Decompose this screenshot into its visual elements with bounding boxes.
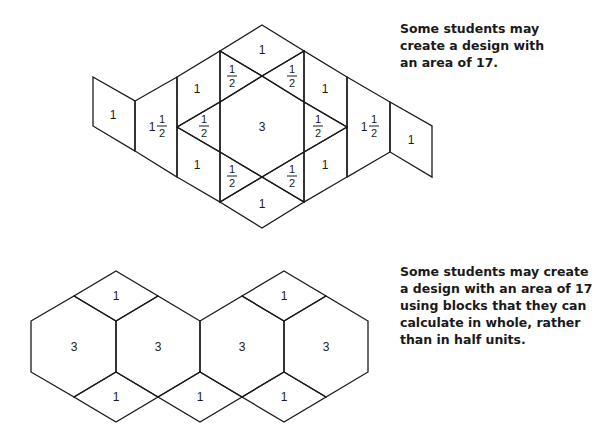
caption-bottom-line-1: Some students may create <box>400 263 593 280</box>
label-right-trapezoid-den: 2 <box>371 127 377 139</box>
caption-top-line-3: an area of 17. <box>400 54 544 71</box>
svg-text:1: 1 <box>289 163 295 175</box>
caption-top-line-2: create a design with <box>400 37 544 54</box>
label-top-rhombus-2: 1 <box>281 289 288 303</box>
svg-text:1: 1 <box>289 63 295 75</box>
label-bottom-rhombus-3: 1 <box>281 390 288 404</box>
svg-text:1: 1 <box>229 63 235 75</box>
label-left-trapezoid-den: 2 <box>159 127 165 139</box>
label-hex-1: 3 <box>71 340 78 354</box>
caption-bottom-line-4: calculate in whole, rather <box>400 314 593 331</box>
label-left-trapezoid-whole: 1 <box>149 120 156 134</box>
label-bottom-rhombus-1: 1 <box>113 390 120 404</box>
label-bottom-rhombus-2: 1 <box>197 390 204 404</box>
label-right-trapezoid-whole: 1 <box>361 120 368 134</box>
lower-left-triangle-shape <box>220 152 262 202</box>
label-lower-right: 1 <box>322 158 329 172</box>
left-trapezoid-shape <box>135 77 177 177</box>
label-right-trapezoid-num: 1 <box>371 113 377 125</box>
upper-left-triangle-shape <box>220 51 262 102</box>
caption-bottom: Some students may create a design with a… <box>400 263 593 348</box>
label-upper-right: 1 <box>322 82 329 96</box>
label-right-square: 1 <box>408 133 415 147</box>
label-upper-left: 1 <box>194 82 201 96</box>
svg-text:2: 2 <box>315 127 321 139</box>
half-right: 1 2 <box>313 113 323 139</box>
caption-bottom-line-5: than in half units. <box>400 331 593 348</box>
bottom-design: 3 3 3 3 1 1 1 1 1 <box>31 271 368 422</box>
top-design: 1 1 1 2 1 1 1 1 3 1 1 1 1 1 2 1 2 1 2 1 … <box>93 25 432 228</box>
left-triangle-shape <box>177 102 220 152</box>
label-hex-4: 3 <box>323 340 330 354</box>
svg-text:1: 1 <box>201 113 207 125</box>
label-lower-left: 1 <box>194 158 201 172</box>
right-triangle-shape <box>304 102 347 152</box>
half-upper-left: 1 2 <box>227 63 237 89</box>
svg-text:2: 2 <box>289 177 295 189</box>
svg-text:2: 2 <box>229 77 235 89</box>
label-hex-2: 3 <box>155 340 162 354</box>
half-lower-left: 1 2 <box>227 163 237 189</box>
label-hex-3: 3 <box>239 340 246 354</box>
label-bottom: 1 <box>259 197 266 211</box>
lower-right-triangle-shape <box>262 152 304 202</box>
svg-text:1: 1 <box>229 163 235 175</box>
upper-right-triangle-shape <box>262 51 304 102</box>
half-left: 1 2 <box>199 113 209 139</box>
svg-text:2: 2 <box>229 177 235 189</box>
label-left-square: 1 <box>110 108 117 122</box>
half-lower-right: 1 2 <box>287 163 297 189</box>
label-center-hex: 3 <box>259 120 266 134</box>
caption-bottom-line-2: a design with an area of 17 <box>400 280 593 297</box>
label-top-rhombus-1: 1 <box>113 289 120 303</box>
caption-top-line-1: Some students may <box>400 20 544 37</box>
caption-top: Some students may create a design with a… <box>400 20 544 71</box>
label-top: 1 <box>259 43 266 57</box>
caption-bottom-line-3: using blocks that they can <box>400 297 593 314</box>
label-left-trapezoid-num: 1 <box>159 113 165 125</box>
half-upper-right: 1 2 <box>287 63 297 89</box>
svg-text:1: 1 <box>315 113 321 125</box>
right-trapezoid-shape <box>347 77 390 177</box>
svg-text:2: 2 <box>201 127 207 139</box>
svg-text:2: 2 <box>289 77 295 89</box>
